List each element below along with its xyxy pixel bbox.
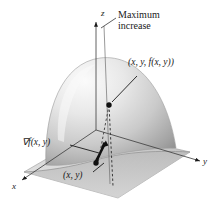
label-axis-x: x — [12, 181, 16, 191]
figure-canvas — [0, 0, 216, 219]
label-base-point: (x, y) — [63, 170, 83, 181]
surface-point-marker — [106, 102, 111, 107]
gradient-surface-figure: Maximum increase (x, y, f(x, y)) ∇f(x, y… — [0, 0, 216, 219]
label-maximum-increase: Maximum increase — [118, 9, 184, 31]
label-gradient-vector: ∇f(x, y) — [22, 137, 50, 148]
leader-maximum-increase — [101, 18, 116, 28]
label-axis-y: y — [203, 156, 207, 166]
label-axis-z: z — [101, 8, 105, 18]
base-point-marker — [93, 160, 98, 165]
label-surface-point: (x, y, f(x, y)) — [128, 57, 174, 68]
